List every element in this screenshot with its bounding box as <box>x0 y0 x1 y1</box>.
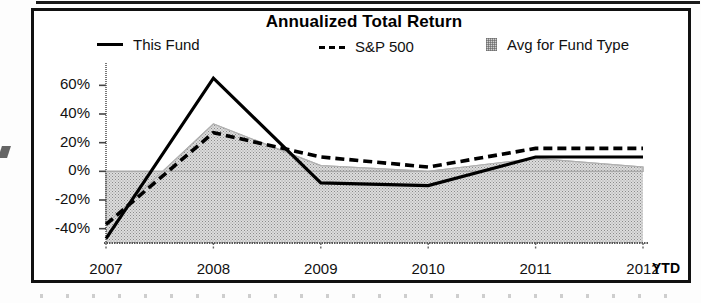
scan-noise-artifact <box>40 294 680 298</box>
page-edge-artifact <box>0 146 11 158</box>
y-tick-label: 0% <box>26 161 90 178</box>
y-tick-label: 40% <box>26 104 90 121</box>
y-tick-label: 60% <box>26 75 90 92</box>
plot-area: 60%40%20%0%-20%-40% 20072008200920102011… <box>34 11 694 286</box>
y-tick-label: -40% <box>26 219 90 236</box>
x-axis-ytd-label: YTD <box>652 260 680 276</box>
x-tick-label: 2008 <box>178 260 248 277</box>
top-rule-line <box>36 1 700 4</box>
scanned-page-background: Annualized Total Return This Fund S&P 50… <box>0 0 701 303</box>
y-tick-label: -20% <box>26 190 90 207</box>
chart-frame: Annualized Total Return This Fund S&P 50… <box>31 8 691 283</box>
x-tick-label: 2007 <box>71 260 141 277</box>
x-tick-label: 2009 <box>286 260 356 277</box>
x-tick-label: 2010 <box>393 260 463 277</box>
y-tick-label: 20% <box>26 133 90 150</box>
chart-plot-svg <box>34 11 694 286</box>
x-tick-label: 2011 <box>501 260 571 277</box>
